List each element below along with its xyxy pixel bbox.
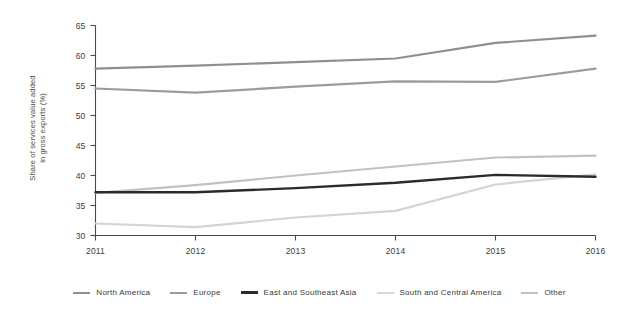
x-axis-tick-label: 2015 <box>486 246 506 256</box>
y-axis-tick-label: 55 <box>76 81 86 91</box>
x-axis-tick-label: 2014 <box>386 246 406 256</box>
plot-area: 6560555045403530201120122013201420152016 <box>0 0 639 288</box>
y-axis-tick-label: 60 <box>76 51 86 61</box>
y-axis-tick-label: 65 <box>76 21 86 31</box>
legend-item-north-america[interactable]: North America <box>73 288 150 297</box>
services-value-added-line-chart: Share of services value added in gross e… <box>0 0 639 323</box>
chart-legend: North AmericaEuropeEast and Southeast As… <box>0 288 639 297</box>
y-axis-tick-label: 30 <box>76 231 86 241</box>
series-line-north-america <box>96 36 596 69</box>
series-line-europe <box>96 69 596 93</box>
series-line-east-and-southeast-asia <box>96 175 596 192</box>
y-axis-tick-label: 40 <box>76 171 86 181</box>
x-axis-tick-label: 2016 <box>586 246 606 256</box>
series-line-south-and-central-america <box>96 174 596 227</box>
legend-item-label: South and Central America <box>400 288 502 297</box>
legend-item-europe[interactable]: Europe <box>170 288 220 297</box>
x-axis-tick-label: 2013 <box>286 246 306 256</box>
legend-line-swatch <box>521 292 538 294</box>
y-axis-tick-label: 50 <box>76 111 86 121</box>
legend-item-label: East and Southeast Asia <box>264 288 357 297</box>
legend-line-swatch <box>377 292 394 294</box>
legend-item-label: Europe <box>193 288 220 297</box>
y-axis-tick-label: 35 <box>76 201 86 211</box>
legend-line-swatch <box>241 291 258 294</box>
legend-item-south-and-central-america[interactable]: South and Central America <box>377 288 502 297</box>
x-axis-tick-label: 2011 <box>86 246 105 256</box>
y-axis-tick-label: 45 <box>76 141 86 151</box>
legend-line-swatch <box>170 292 187 294</box>
legend-item-other[interactable]: Other <box>521 288 565 297</box>
legend-item-label: Other <box>544 288 565 297</box>
legend-item-label: North America <box>96 288 150 297</box>
legend-item-east-and-southeast-asia[interactable]: East and Southeast Asia <box>241 288 357 297</box>
x-axis-tick-label: 2012 <box>186 246 206 256</box>
legend-line-swatch <box>73 292 90 294</box>
